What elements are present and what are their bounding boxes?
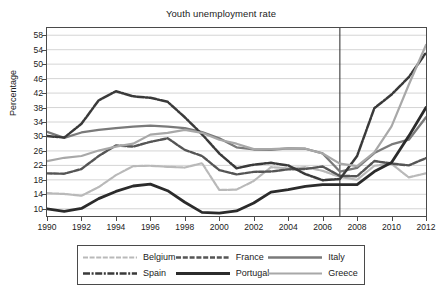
legend-item-spain[interactable]: Spain (82, 268, 175, 279)
x-tick-label-2004: 2004 (271, 222, 305, 232)
y-axis-tick-labels: 10141822263034384246505458 (19, 27, 43, 217)
x-tick-label-1996: 1996 (133, 222, 167, 232)
y-tick-label-10: 10 (21, 205, 43, 213)
legend-row: SpainPortugalGreece (82, 265, 360, 281)
x-tick-label-1998: 1998 (168, 222, 202, 232)
legend-item-belgium[interactable]: Belgium (82, 252, 175, 263)
legend-item-greece[interactable]: Greece (267, 268, 360, 279)
x-tick-label-2008: 2008 (340, 222, 374, 232)
legend-label-belgium: Belgium (143, 252, 176, 262)
legend-swatch-belgium-icon (82, 252, 138, 263)
legend-item-france[interactable]: France (175, 252, 268, 263)
y-tick-label-54: 54 (21, 46, 43, 54)
legend-row: BelgiumFranceItaly (82, 249, 360, 265)
y-tick-label-46: 46 (21, 75, 43, 83)
legend-label-france: France (236, 252, 264, 262)
x-tick-label-1992: 1992 (64, 222, 98, 232)
chart-legend: BelgiumFranceItalySpainPortugalGreece (77, 245, 365, 285)
plot-svg (47, 28, 426, 216)
y-tick-label-22: 22 (21, 161, 43, 169)
y-tick-label-30: 30 (21, 132, 43, 140)
legend-swatch-greece-icon (267, 268, 323, 279)
legend-swatch-spain-icon (82, 268, 138, 279)
legend-swatch-portugal-icon (175, 268, 231, 279)
legend-label-portugal: Portugal (236, 268, 270, 278)
x-tick-label-2002: 2002 (237, 222, 271, 232)
legend-swatch-italy-icon (267, 252, 323, 263)
legend-label-greece: Greece (328, 268, 358, 278)
y-axis-label: Percentage (8, 53, 18, 133)
x-axis-tick-labels: 1990199219941996199820002002200420062008… (46, 220, 427, 236)
y-tick-label-58: 58 (21, 31, 43, 39)
y-tick-label-34: 34 (21, 118, 43, 126)
x-tick-label-2000: 2000 (202, 222, 236, 232)
y-tick-label-14: 14 (21, 190, 43, 198)
y-tick-label-42: 42 (21, 89, 43, 97)
chart-figure: Youth unemployment rate Percentage 10141… (0, 0, 442, 293)
y-tick-label-50: 50 (21, 60, 43, 68)
x-tick-label-1990: 1990 (30, 222, 64, 232)
legend-swatch-france-icon (175, 252, 231, 263)
series-line-spain (47, 53, 426, 181)
x-tick-label-2012: 2012 (409, 222, 442, 232)
plot-area (46, 27, 427, 217)
legend-label-spain: Spain (143, 268, 166, 278)
y-tick-label-26: 26 (21, 147, 43, 155)
y-tick-label-18: 18 (21, 176, 43, 184)
y-tick-label-38: 38 (21, 104, 43, 112)
x-tick-label-2006: 2006 (306, 222, 340, 232)
x-tick-label-1994: 1994 (99, 222, 133, 232)
legend-item-italy[interactable]: Italy (267, 252, 360, 263)
chart-title: Youth unemployment rate (0, 8, 442, 19)
legend-label-italy: Italy (328, 252, 345, 262)
legend-item-portugal[interactable]: Portugal (175, 268, 268, 279)
x-tick-label-2010: 2010 (375, 222, 409, 232)
